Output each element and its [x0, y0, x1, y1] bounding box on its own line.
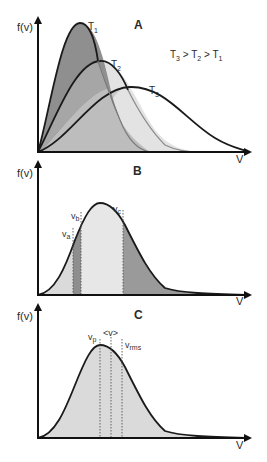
- marker-label-vp: vp: [88, 332, 97, 344]
- region-above-vc: [123, 160, 253, 300]
- marker-label-vavg: <v>: [103, 328, 118, 338]
- marker-label-vb: vb: [71, 211, 80, 222]
- x-axis-label-c: V: [236, 439, 244, 451]
- marker-label-vrms: vrms: [125, 340, 142, 351]
- panel-a: f(v) V A T1 T2 T3 T3 > T2 > T1: [17, 18, 250, 165]
- x-axis-label-a: V: [236, 153, 244, 165]
- panel-letter-b: B: [133, 164, 142, 178]
- x-axis-label-b: V: [236, 295, 244, 307]
- y-axis-label-a: f(v): [17, 21, 33, 33]
- y-axis-label-b: f(v): [17, 167, 33, 179]
- panel-c: f(v) V C vp <v> vrms: [17, 305, 250, 451]
- temperature-relation: T3 > T2 > T1: [170, 49, 223, 62]
- curve-c-fill: [38, 345, 246, 438]
- y-axis-label-c: f(v): [17, 310, 33, 322]
- maxwell-boltzmann-figure: f(v) V A T1 T2 T3 T3 > T2 > T1 f(v) V: [0, 0, 267, 462]
- panel-b: f(v) V B va vb vc: [17, 160, 253, 307]
- region-vb-vc: [81, 160, 123, 300]
- panel-letter-a: A: [134, 18, 143, 32]
- marker-label-vc: vc: [113, 204, 122, 215]
- panel-letter-c: C: [134, 308, 143, 322]
- marker-label-va: va: [62, 229, 71, 240]
